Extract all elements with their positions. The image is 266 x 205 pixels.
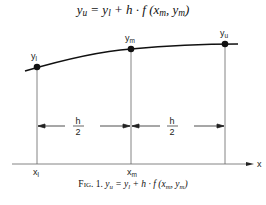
caption-close: ) bbox=[184, 179, 187, 189]
point-yl bbox=[34, 64, 41, 71]
interval-right-numerator: h bbox=[169, 116, 174, 126]
x-axis-arrow-icon bbox=[246, 162, 254, 166]
interval-right-denominator: 2 bbox=[169, 127, 174, 137]
point-yu bbox=[222, 41, 229, 48]
label-ym: ym bbox=[125, 33, 135, 44]
x-axis-label: x bbox=[257, 159, 262, 169]
caption-comma-part: , y bbox=[171, 179, 180, 189]
caption-plus-part: + h · f (x bbox=[130, 179, 165, 189]
figure-caption: Fig. 1. yu = yl + h · f (xm, ym) bbox=[0, 179, 266, 190]
interval-left-denominator: 2 bbox=[75, 127, 80, 137]
interval-left-numerator: h bbox=[75, 116, 80, 126]
label-xm: xm bbox=[127, 167, 137, 178]
midpoint-diagram: yl ym yu h 2 h 2 x xl xm bbox=[0, 0, 266, 205]
label-yl: yl bbox=[31, 51, 38, 62]
caption-fig-number: Fig. 1. bbox=[78, 179, 103, 189]
label-yu: yu bbox=[220, 28, 229, 39]
point-ym bbox=[128, 46, 135, 53]
label-xl: xl bbox=[33, 167, 40, 178]
caption-equals: = bbox=[113, 179, 124, 189]
